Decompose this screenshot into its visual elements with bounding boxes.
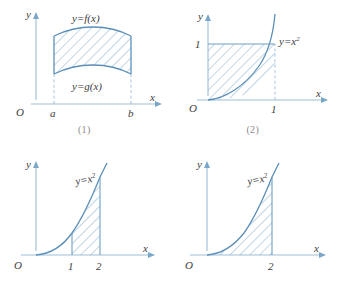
x-tick-2: 2: [268, 260, 274, 272]
x-axis-label: x: [313, 242, 319, 254]
panel-2: y x O 1 1 y=x2 (2): [169, 0, 337, 137]
origin-label: O: [14, 259, 22, 271]
origin-label: O: [16, 106, 24, 118]
curve-label-g: y=g(x): [71, 80, 102, 93]
y-axis-arrow: [205, 14, 211, 21]
origin-label: O: [185, 259, 193, 271]
panel-2-caption: (2): [169, 124, 337, 135]
y-axis-label: y: [25, 158, 31, 170]
panel-1-caption: (1): [0, 124, 169, 135]
y-axis-arrow: [204, 161, 210, 168]
shaded-region-3: [72, 177, 100, 255]
y-axis-label: y: [197, 10, 203, 22]
shaded-region-1: [54, 27, 131, 74]
shaded-region-2: [208, 44, 275, 100]
y-axis-label: y: [196, 158, 202, 170]
curve-label-f: y=f(x): [71, 12, 100, 25]
y-axis-arrow: [33, 12, 39, 19]
x-tick-b: b: [128, 107, 134, 119]
x-axis-arrow: [155, 101, 162, 107]
panel-1: y x O a b y=f(x) y=g(x) (1): [0, 0, 169, 137]
y-tick-1: 1: [195, 38, 201, 50]
panel-4: y x O 2 y=x2: [169, 137, 337, 290]
x-tick-1: 1: [271, 103, 277, 115]
curve-label-parabola: y=x2: [245, 171, 269, 187]
x-axis-arrow: [148, 252, 155, 258]
curve-label-parabola: y=x2: [73, 171, 97, 187]
y-axis-arrow: [33, 161, 39, 168]
x-axis-label: x: [142, 242, 148, 254]
panel-3: y x O 1 2 y=x2: [0, 137, 169, 290]
x-axis-arrow: [321, 97, 328, 103]
origin-label: O: [189, 102, 197, 114]
x-axis-arrow: [319, 252, 326, 258]
curve-label-parabola: y=x2: [278, 35, 300, 47]
x-tick-2: 2: [96, 260, 102, 272]
x-axis-label: x: [315, 87, 321, 99]
x-tick-a: a: [50, 107, 56, 119]
x-tick-1: 1: [68, 260, 74, 272]
x-axis-label: x: [149, 91, 155, 103]
shaded-region-4: [207, 177, 272, 255]
figure-grid: y x O a b y=f(x) y=g(x) (1): [0, 0, 337, 290]
y-axis-label: y: [25, 8, 31, 20]
